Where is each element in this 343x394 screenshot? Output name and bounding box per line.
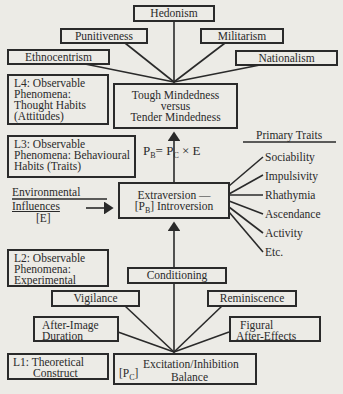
l2-line3: Experimental bbox=[14, 275, 107, 286]
label: Militarism bbox=[218, 31, 267, 42]
l4-line4: (Attitudes) bbox=[14, 111, 107, 122]
attitude-ethnocentrism: Ethnocentrism bbox=[7, 49, 110, 65]
figural-box: Figural After-Effects bbox=[229, 316, 321, 342]
label: Hedonism bbox=[150, 8, 197, 19]
label: Reminiscence bbox=[220, 293, 285, 304]
excitation-line2: Balance bbox=[171, 371, 208, 383]
attitude-hedonism: Hedonism bbox=[133, 5, 215, 22]
pc-label: [PC] bbox=[119, 367, 138, 379]
vigilance-box: Vigilance bbox=[51, 290, 140, 307]
pc-prefix: [P bbox=[119, 367, 129, 379]
tough-line1: Tough Mindedness bbox=[132, 90, 220, 101]
excitation-inhibition-box: [PC] Excitation/Inhibition Balance bbox=[113, 353, 257, 385]
l3-line3: Habits (Traits) bbox=[14, 161, 134, 172]
figural-line2: After-Effects bbox=[236, 331, 319, 342]
reminiscence-box: Reminiscence bbox=[207, 290, 297, 307]
l1-line2: Construct bbox=[13, 368, 107, 379]
level-l2-box: L2: Observable Phenomena: Experimental bbox=[7, 249, 109, 287]
formula: PB= PC × E bbox=[143, 145, 201, 157]
label: Ethnocentrism bbox=[25, 52, 92, 63]
pb-prefix: [P bbox=[135, 200, 145, 212]
formula-eq: = P bbox=[156, 143, 174, 158]
formula-rest: × E bbox=[179, 143, 201, 158]
attitude-punitiveness: Punitiveness bbox=[60, 28, 148, 44]
attitude-nationalism: Nationalism bbox=[235, 50, 338, 66]
introversion: ] Introversion bbox=[150, 200, 213, 212]
env-line1: Environmental bbox=[12, 186, 80, 198]
after-image-line2: Duration bbox=[42, 331, 117, 342]
attitude-militarism: Militarism bbox=[200, 28, 284, 44]
excitation-line1: Excitation/Inhibition bbox=[143, 358, 239, 370]
trait-item: Sociability bbox=[265, 151, 315, 163]
env-line2: Influences bbox=[12, 200, 60, 212]
label: Conditioning bbox=[147, 270, 208, 281]
primary-traits-title: Primary Traits bbox=[256, 129, 322, 141]
tough-tender-box: Tough Mindedness versus Tender Mindednes… bbox=[113, 83, 238, 129]
tough-line2: versus bbox=[161, 101, 190, 112]
extraversion-box: Extraversion — [PB] Introversion bbox=[118, 182, 230, 219]
level-l1-box: L1: Theoretical Construct bbox=[7, 353, 109, 380]
trait-item: Rhathymia bbox=[265, 189, 315, 201]
label: Vigilance bbox=[73, 293, 117, 304]
level-l3-box: L3: Observable Phenomena: Behavioural Ha… bbox=[7, 135, 136, 178]
conditioning-box: Conditioning bbox=[127, 267, 227, 284]
level-l4-box: L4: Observable Phenomena: Thought Habits… bbox=[7, 74, 109, 125]
env-line3: [E] bbox=[36, 212, 51, 224]
label: Nationalism bbox=[258, 53, 314, 64]
tough-line3: Tender Mindedness bbox=[130, 112, 220, 123]
trait-item: Etc. bbox=[265, 246, 283, 258]
trait-item: Activity bbox=[265, 227, 303, 239]
extraversion-line2: [PB] Introversion bbox=[135, 201, 214, 212]
label: Punitiveness bbox=[75, 31, 133, 42]
pc-end: ] bbox=[135, 367, 139, 379]
trait-item: Ascendance bbox=[265, 208, 321, 220]
after-image-box: After-Image Duration bbox=[33, 316, 119, 342]
trait-item: Impulsivity bbox=[265, 170, 318, 182]
